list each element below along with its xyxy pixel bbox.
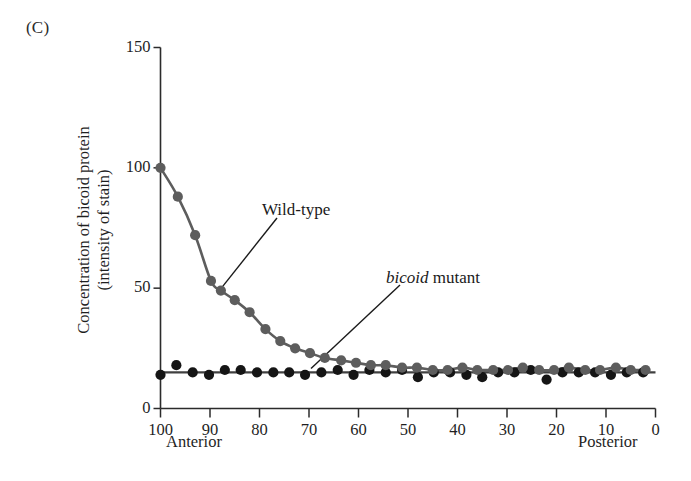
figure-panel: (C) Concentration of bicoid protein (int… xyxy=(0,0,691,481)
data-point-wild-type xyxy=(275,336,285,346)
x-tick-label: 10 xyxy=(586,420,626,440)
data-point-wild-type xyxy=(503,365,513,375)
axis-ticks xyxy=(154,48,656,418)
data-point-wild-type xyxy=(336,355,346,365)
annotation-mutant-rest: mutant xyxy=(429,268,480,287)
x-tick-label: 90 xyxy=(190,420,230,440)
data-point-bicoid-mutant xyxy=(220,365,230,375)
data-point-wild-type xyxy=(351,358,361,368)
data-point-bicoid-mutant xyxy=(204,370,214,380)
data-point-wild-type xyxy=(320,353,330,363)
data-point-wild-type xyxy=(626,365,636,375)
data-point-bicoid-mutant xyxy=(268,367,278,377)
y-axis-title-line-2: (intensity of stain) xyxy=(94,65,114,395)
data-point-bicoid-mutant xyxy=(333,365,343,375)
data-point-wild-type xyxy=(457,362,467,372)
data-point-bicoid-mutant xyxy=(300,370,310,380)
x-tick-label: 0 xyxy=(636,420,676,440)
data-point-wild-type xyxy=(173,192,183,202)
annotation-bicoid-italic: bicoid xyxy=(386,268,429,287)
data-point-wild-type xyxy=(595,365,605,375)
data-point-wild-type xyxy=(245,307,255,317)
data-point-wild-type xyxy=(412,362,422,372)
panel-label: (C) xyxy=(26,18,49,38)
data-point-wild-type xyxy=(381,360,391,370)
data-point-wild-type xyxy=(366,360,376,370)
data-point-bicoid-mutant xyxy=(252,367,262,377)
data-point-bicoid-mutant xyxy=(188,367,198,377)
data-point-wild-type xyxy=(397,362,407,372)
data-point-wild-type xyxy=(518,362,528,372)
data-point-wild-type xyxy=(549,365,559,375)
axes xyxy=(161,48,656,409)
y-tick-label: 150 xyxy=(107,37,151,57)
annotation-bicoid-mutant: bicoid mutant xyxy=(386,268,480,288)
data-point-wild-type xyxy=(564,362,574,372)
data-point-bicoid-mutant xyxy=(413,372,423,382)
data-point-wild-type xyxy=(428,365,438,375)
data-point-wild-type xyxy=(488,365,498,375)
data-point-wild-type xyxy=(641,365,651,375)
data-point-bicoid-mutant xyxy=(171,360,181,370)
y-tick-label: 50 xyxy=(107,277,151,297)
data-point-bicoid-mutant xyxy=(284,367,294,377)
y-axis-title-line-1: Concentration of bicoid protein xyxy=(74,65,94,395)
data-point-wild-type xyxy=(290,343,300,353)
x-tick-label: 100 xyxy=(141,420,181,440)
data-point-bicoid-mutant xyxy=(542,375,552,385)
data-point-bicoid-mutant xyxy=(155,370,165,380)
x-tick-label: 80 xyxy=(240,420,280,440)
data-point-wild-type xyxy=(305,348,315,358)
data-point-wild-type xyxy=(443,365,453,375)
data-point-wild-type xyxy=(611,362,621,372)
data-point-wild-type xyxy=(472,365,482,375)
data-point-bicoid-mutant xyxy=(348,370,358,380)
leader-line-wild-type xyxy=(223,218,277,286)
x-tick-label: 70 xyxy=(289,420,329,440)
x-tick-label: 40 xyxy=(438,420,478,440)
data-point-bicoid-mutant xyxy=(236,365,246,375)
x-tick-label: 50 xyxy=(388,420,428,440)
data-point-wild-type xyxy=(260,324,270,334)
leader-lines xyxy=(223,218,400,368)
data-point-wild-type xyxy=(155,163,165,173)
data-point-bicoid-mutant xyxy=(316,367,326,377)
x-tick-label: 30 xyxy=(487,420,527,440)
y-axis-title: Concentration of bicoid protein (intensi… xyxy=(74,65,114,395)
data-point-wild-type xyxy=(534,365,544,375)
y-tick-label: 100 xyxy=(107,157,151,177)
x-tick-label: 60 xyxy=(339,420,379,440)
y-tick-label: 0 xyxy=(107,398,151,418)
x-tick-label: 20 xyxy=(537,420,577,440)
data-point-wild-type xyxy=(216,285,226,295)
data-point-wild-type xyxy=(206,276,216,286)
annotation-wild-type: Wild-type xyxy=(262,200,330,220)
data-point-wild-type xyxy=(230,295,240,305)
data-point-wild-type xyxy=(190,230,200,240)
data-point-wild-type xyxy=(580,365,590,375)
